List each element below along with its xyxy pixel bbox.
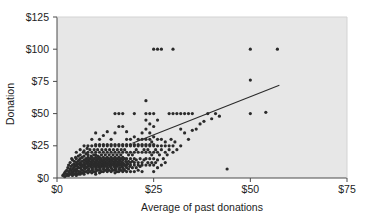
data-point [140, 131, 143, 134]
data-point [90, 138, 93, 141]
data-point [86, 151, 89, 154]
data-point [142, 148, 145, 151]
data-point [88, 148, 91, 151]
data-point [187, 112, 190, 115]
data-point [135, 166, 138, 169]
data-point [152, 112, 155, 115]
data-point [113, 151, 116, 154]
data-point [113, 112, 116, 115]
data-point [152, 48, 155, 51]
data-point [133, 135, 136, 138]
data-point [137, 143, 140, 146]
y-tick-label-3: $75 [31, 75, 49, 87]
data-point [158, 153, 161, 156]
chart-page: $0$25$50$75$100$125 $0$25$50$75 Donation… [0, 0, 369, 221]
data-point [135, 158, 138, 161]
data-point [140, 161, 143, 164]
data-point [148, 138, 151, 141]
data-point [125, 151, 128, 154]
data-point [125, 157, 128, 160]
data-point [148, 112, 151, 115]
data-point [179, 127, 182, 130]
data-point [264, 111, 267, 114]
data-point [133, 151, 136, 154]
data-point [131, 166, 134, 169]
data-point [148, 164, 151, 167]
data-point [129, 143, 132, 146]
data-point [171, 112, 174, 115]
data-point [148, 122, 151, 125]
data-point [148, 157, 151, 160]
data-point [100, 153, 103, 156]
data-point [171, 144, 174, 147]
data-point [133, 161, 136, 164]
data-point [98, 151, 101, 154]
data-point [156, 166, 159, 169]
data-point [94, 143, 97, 146]
data-point [164, 161, 167, 164]
data-point [183, 112, 186, 115]
data-point [135, 148, 138, 151]
data-point [79, 148, 82, 151]
data-point [144, 151, 147, 154]
data-point [164, 151, 167, 154]
data-point [102, 143, 105, 146]
data-point [191, 112, 194, 115]
data-point [131, 153, 134, 156]
data-point [179, 112, 182, 115]
data-point [125, 138, 128, 141]
data-point [202, 120, 205, 123]
data-point [144, 99, 147, 102]
data-point [129, 138, 132, 141]
data-point [249, 48, 252, 51]
data-point [117, 143, 120, 146]
data-point [102, 134, 105, 137]
data-point [119, 153, 122, 156]
data-point [171, 151, 174, 154]
y-tick-label-0: $0 [37, 172, 49, 184]
data-point [249, 112, 252, 115]
data-point [129, 157, 132, 160]
data-point [156, 138, 159, 141]
data-point [171, 48, 174, 51]
data-point [96, 148, 99, 151]
data-point [108, 153, 111, 156]
data-point [175, 112, 178, 115]
data-point [113, 131, 116, 134]
data-point [148, 143, 151, 146]
data-point [144, 118, 147, 121]
x-tick-label-3: $75 [338, 183, 356, 195]
data-point [127, 153, 130, 156]
data-point [117, 112, 120, 115]
data-point [98, 143, 101, 146]
data-point [106, 130, 109, 133]
data-point [106, 151, 109, 154]
data-point [168, 148, 171, 151]
data-point [173, 140, 176, 143]
data-point [154, 148, 157, 151]
data-point [110, 143, 113, 146]
data-point [160, 164, 163, 167]
data-point [249, 79, 252, 82]
data-point [146, 161, 149, 164]
data-point [144, 112, 147, 115]
data-point [160, 138, 163, 141]
data-point [75, 151, 78, 154]
data-point [133, 170, 136, 173]
data-point [150, 161, 153, 164]
data-point [121, 112, 124, 115]
data-point [169, 138, 172, 141]
data-point [160, 48, 163, 51]
data-point [168, 144, 171, 147]
data-point [117, 151, 120, 154]
data-point [144, 157, 147, 160]
data-point [123, 148, 126, 151]
data-point [175, 148, 178, 151]
data-point [276, 48, 279, 51]
x-tick-label-0: $0 [51, 183, 63, 195]
data-point [98, 138, 101, 141]
data-point [187, 138, 190, 141]
data-point [82, 149, 85, 152]
data-point [152, 170, 155, 173]
y-axis-title: Donation [4, 83, 16, 125]
